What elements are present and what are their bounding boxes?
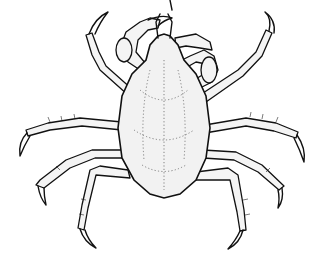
crab-drawing xyxy=(0,0,321,255)
right-legs xyxy=(196,12,304,249)
crab-illustration xyxy=(0,0,321,255)
